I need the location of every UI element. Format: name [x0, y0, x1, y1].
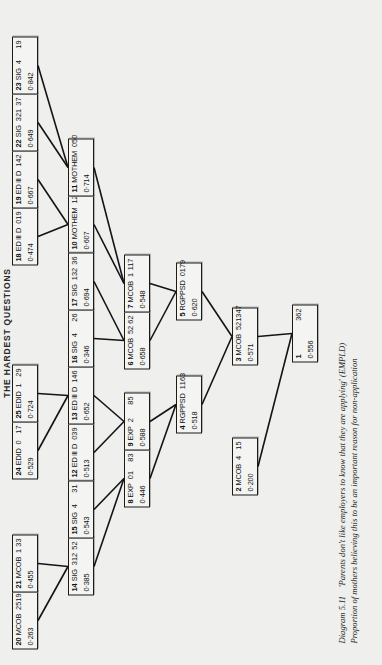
tree-edge-4-9: [150, 404, 176, 421]
node-id: 3: [235, 357, 242, 361]
node-category: 1: [15, 548, 22, 552]
node-variable: RGPPSD: [179, 280, 186, 310]
node-category: 1: [179, 385, 186, 389]
node-proportion: 0·607: [83, 231, 90, 249]
node-variable: ED Ⅲ D: [71, 386, 78, 410]
tree-edge-1-3: [258, 333, 292, 336]
tree-edge-14-21: [38, 563, 68, 566]
node-variable: MCOB: [127, 281, 134, 302]
node-category: 4: [235, 455, 242, 459]
node-id: 15: [71, 526, 78, 534]
node-category: 521: [235, 317, 242, 329]
tree-edge-11-23: [38, 65, 68, 167]
node-variable: ED Ⅲ D: [15, 227, 22, 251]
node-category: 0: [15, 219, 22, 223]
node-variable: EDID: [15, 448, 22, 465]
node-proportion: 0·714: [83, 174, 90, 192]
tree-edge-14-20: [38, 566, 68, 620]
node-count: 39: [71, 427, 78, 435]
tree-edge-13-24: [38, 395, 68, 450]
tree-node-12: 12ED Ⅲ D0390·513: [68, 423, 94, 481]
node-id: 4: [179, 425, 186, 429]
node-proportion: 0·385: [83, 573, 90, 591]
node-variable: MCOB: [127, 338, 134, 359]
tree-node-24: 24EDID0170·529: [12, 421, 38, 479]
node-count: 36: [71, 256, 78, 264]
node-id: 25: [15, 410, 22, 418]
node-proportion: 0·556: [307, 340, 314, 358]
node-variable: EXP: [127, 483, 134, 497]
node-count: 52: [71, 541, 78, 549]
node-proportion: 0·529: [27, 457, 34, 475]
node-id: 7: [127, 304, 134, 308]
node-count: 15: [235, 441, 242, 449]
node-count: 19: [15, 211, 22, 219]
node-proportion: 0·694: [83, 288, 90, 306]
node-id: 11: [71, 184, 78, 192]
node-count: 33: [15, 538, 22, 546]
tree-node-20: 20MCOB25190·263: [12, 591, 38, 649]
node-category: 0: [179, 272, 186, 276]
node-variable: SIG: [15, 125, 22, 137]
node-variable: EDID: [15, 391, 22, 408]
node-id: 8: [127, 499, 134, 503]
node-count: 179: [179, 259, 186, 271]
tree-node-15: 15SIG4310·543: [68, 480, 94, 538]
node-category: 0: [71, 435, 78, 439]
node-proportion: 0·571: [247, 343, 254, 361]
node-proportion: 0·474: [27, 243, 34, 261]
node-variable: SIG: [71, 284, 78, 296]
tree-edge-4-8: [150, 404, 176, 478]
tree-edge-10-18: [38, 224, 68, 236]
tree-node-6: 6MCOB52620·658: [124, 311, 150, 369]
node-id: 9: [127, 442, 134, 446]
tree-node-9: 9EXP2850·588: [124, 392, 150, 450]
tree-edge-11-22: [38, 122, 68, 167]
node-proportion: 0·588: [139, 428, 146, 446]
node-count: 362: [295, 308, 302, 320]
tree-node-17: 17SIG132360·694: [68, 252, 94, 310]
figure-label: Diagram 5.11: [337, 595, 347, 643]
node-count: 163: [179, 372, 186, 384]
node-count: 46: [71, 370, 78, 378]
node-id: 18: [15, 253, 22, 261]
node-count: 62: [127, 315, 134, 323]
node-proportion: 0·842: [27, 72, 34, 90]
node-count: 17: [15, 425, 22, 433]
node-category: 2: [127, 418, 134, 422]
node-count: 50: [71, 134, 78, 142]
node-variable: MCOB: [15, 556, 22, 577]
tree-node-14: 14SIG312520·385: [68, 537, 94, 595]
node-category: 0: [15, 440, 22, 444]
node-category: 1: [127, 272, 134, 276]
node-proportion: 0·518: [191, 411, 198, 429]
node-category: 01: [127, 470, 134, 478]
node-variable: MOTHEM: [71, 151, 78, 183]
tree-node-19: 19ED Ⅲ D1420·667: [12, 150, 38, 208]
node-category: 4: [71, 333, 78, 337]
node-variable: SIG: [71, 569, 78, 581]
tree-edges: [0, 0, 330, 665]
tree-edge-10-19: [38, 179, 68, 224]
tree-node-18: 18ED Ⅲ D0190·474: [12, 207, 38, 265]
node-category: 321: [15, 108, 22, 120]
node-proportion: 0·620: [191, 298, 198, 316]
node-id: 24: [15, 467, 22, 475]
tree-node-23: 23SIG4190·842: [12, 36, 38, 94]
node-variable: SIG: [15, 68, 22, 80]
node-variable: MOTHEM: [71, 207, 78, 239]
node-id: 23: [15, 82, 22, 90]
node-variable: MCOB: [15, 613, 22, 634]
node-id: 17: [71, 298, 78, 306]
tree-node-22: 22SIG321370·649: [12, 93, 38, 151]
node-category: 52: [127, 325, 134, 333]
tree-node-4: 4RGPPSD11630·518: [176, 375, 202, 433]
tree-edge-5-6: [150, 291, 176, 340]
tree-edge-9-13: [94, 395, 124, 421]
node-count: 19: [15, 593, 22, 601]
tree-node-2: 2MCOB4150·200: [232, 437, 258, 495]
node-category: 312: [71, 552, 78, 564]
node-count: 85: [127, 396, 134, 404]
node-category: 4: [71, 504, 78, 508]
tree-node-13: 13ED Ⅲ D1460·652: [68, 366, 94, 424]
